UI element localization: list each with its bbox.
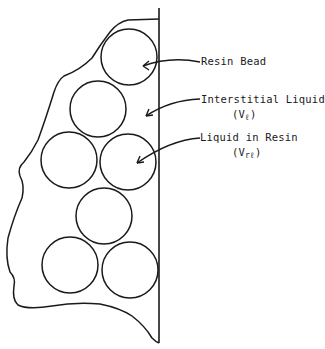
resin-bead	[76, 188, 132, 244]
leader-arrows	[137, 60, 200, 163]
resin-bead	[102, 242, 158, 298]
label-resin-bead: Resin Bead	[201, 55, 266, 67]
resin-bead	[70, 81, 126, 137]
arrow-resin-bead	[143, 60, 200, 66]
bed-outline	[7, 19, 159, 343]
resin-bead	[41, 132, 97, 188]
label-resin-symbol: (Vrℓ)	[232, 146, 262, 160]
label-interstitial-symbol: (Vℓ)	[232, 108, 257, 122]
resin-beads	[41, 29, 158, 298]
arrow-interstitial	[146, 99, 200, 116]
resin-bead	[42, 237, 98, 293]
label-interstitial-liquid: Interstitial Liquid	[201, 93, 325, 105]
resin-bead	[100, 134, 156, 190]
label-liquid-in-resin: Liquid in Resin	[200, 131, 298, 143]
resin-bead	[101, 29, 157, 85]
